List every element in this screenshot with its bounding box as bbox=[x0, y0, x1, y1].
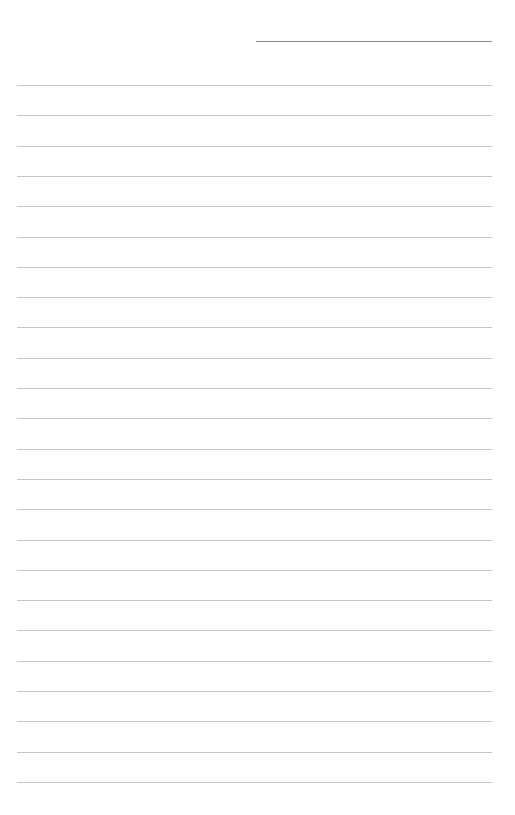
ruled-line bbox=[17, 570, 492, 571]
ruled-line bbox=[17, 600, 492, 601]
ruled-line bbox=[17, 418, 492, 419]
ruled-line bbox=[17, 85, 492, 86]
ruled-line bbox=[17, 146, 492, 147]
ruled-line bbox=[17, 237, 492, 238]
ruled-line bbox=[17, 388, 492, 389]
ruled-line bbox=[17, 267, 492, 268]
ruled-line bbox=[17, 509, 492, 510]
ruled-line bbox=[17, 297, 492, 298]
ruled-line bbox=[17, 691, 492, 692]
ruled-line bbox=[17, 721, 492, 722]
ruled-line bbox=[17, 661, 492, 662]
ruled-line bbox=[17, 630, 492, 631]
ruled-line bbox=[17, 479, 492, 480]
ruled-line bbox=[17, 782, 492, 783]
ruled-page bbox=[0, 0, 515, 815]
ruled-line bbox=[17, 540, 492, 541]
date-header-line bbox=[256, 41, 492, 42]
ruled-line bbox=[17, 206, 492, 207]
ruled-line bbox=[17, 176, 492, 177]
ruled-line bbox=[17, 449, 492, 450]
ruled-line bbox=[17, 358, 492, 359]
ruled-line bbox=[17, 327, 492, 328]
ruled-line bbox=[17, 115, 492, 116]
ruled-line bbox=[17, 752, 492, 753]
